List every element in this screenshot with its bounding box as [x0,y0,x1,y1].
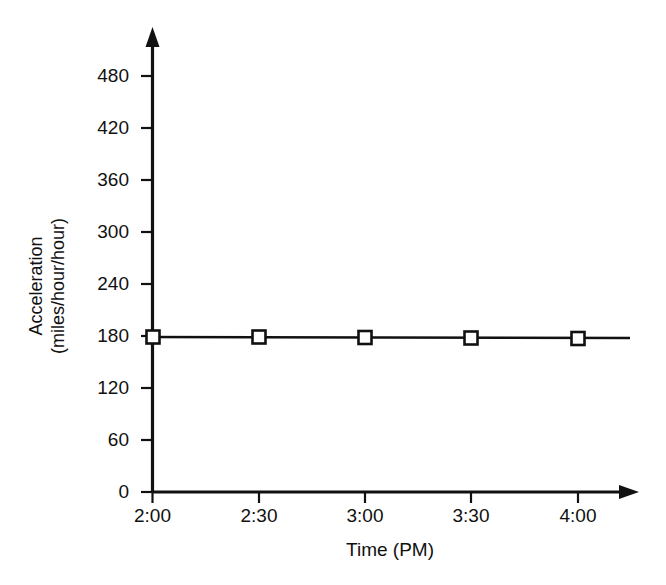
y-axis-title-line1: Acceleration [26,236,46,335]
data-point-marker [572,332,585,345]
y-tick-label-120: 120 [97,377,129,398]
data-point-marker [359,331,372,344]
series-line [146,337,630,338]
y-tick-label-420: 420 [97,117,129,138]
y-tick-label-300: 300 [97,221,129,242]
y-axis-title-line2: (miles/hour/hour) [48,218,68,354]
x-tick-label-300: 3:00 [347,505,384,526]
data-series-acceleration [146,331,630,346]
y-tick-label-360: 360 [97,169,129,190]
y-tick-label-480: 480 [97,65,129,86]
data-point-marker [253,331,266,344]
y-tick-label-60: 60 [108,429,129,450]
y-axis-arrow-icon [146,27,160,47]
y-tick-label-0: 0 [118,481,129,502]
x-axis-tick-labels: 2:00 2:30 3:00 3:30 4:00 [134,505,596,526]
y-axis-tick-labels: 480 420 360 300 240 180 120 60 0 [97,65,129,502]
x-axis-ticks [153,492,579,503]
x-tick-label-200: 2:00 [134,505,171,526]
x-axis-title: Time (PM) [346,539,434,560]
x-axis-arrow-icon [619,485,639,499]
y-axis [146,27,160,492]
chart-canvas: 480 420 360 300 240 180 120 60 0 2:00 2:… [0,0,666,585]
y-axis-title: Acceleration (miles/hour/hour) [26,218,68,354]
data-point-marker [147,331,160,344]
x-tick-label-330: 3:30 [453,505,490,526]
y-tick-label-240: 240 [97,273,129,294]
x-tick-label-400: 4:00 [560,505,597,526]
x-axis [153,485,640,499]
data-point-marker [465,332,478,345]
y-tick-label-180: 180 [97,325,129,346]
chart-figure: 480 420 360 300 240 180 120 60 0 2:00 2:… [0,0,666,585]
x-tick-label-230: 2:30 [241,505,278,526]
